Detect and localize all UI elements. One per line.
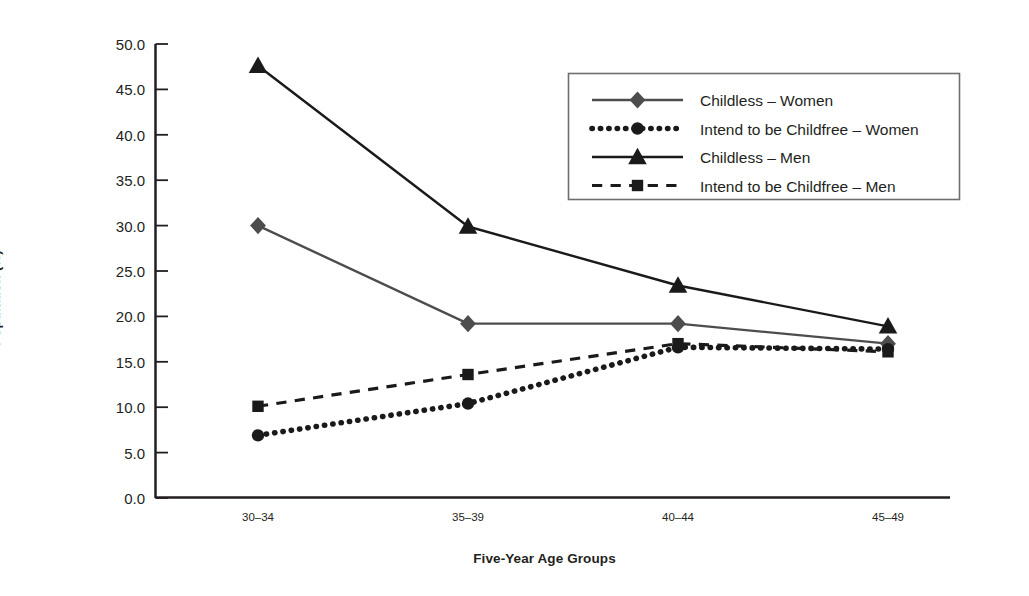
y-tick-label: 20.0 bbox=[116, 308, 145, 325]
x-axis-title-text: Five-Year Age Groups bbox=[413, 551, 616, 566]
series-marker bbox=[882, 346, 893, 357]
legend-label: Childless – Women bbox=[700, 92, 833, 109]
y-tick-label: 30.0 bbox=[116, 218, 145, 235]
line-chart-canvas: 0.05.010.015.020.025.030.035.040.045.050… bbox=[0, 0, 1029, 596]
x-tick-label: 30–34 bbox=[242, 511, 275, 523]
legend-marker-sample bbox=[631, 122, 643, 134]
y-axis-title-text: Population (%) bbox=[0, 250, 33, 346]
x-tick-label: 35–39 bbox=[452, 511, 484, 523]
y-tick-label: 0.0 bbox=[124, 490, 145, 507]
y-tick-label: 10.0 bbox=[116, 399, 145, 416]
series-marker bbox=[670, 315, 686, 332]
series-marker bbox=[249, 56, 268, 72]
series-line bbox=[258, 226, 888, 344]
x-axis-tick-labels: 30–3435–3940–4445–49 bbox=[242, 511, 904, 523]
y-tick-label: 35.0 bbox=[116, 172, 145, 189]
series-marker bbox=[252, 429, 264, 441]
x-tick-label: 45–49 bbox=[872, 511, 904, 523]
chart-figure: 0.05.010.015.020.025.030.035.040.045.050… bbox=[0, 0, 1029, 596]
legend-label: Intend to be Childfree – Men bbox=[700, 178, 896, 195]
y-axis-ticks bbox=[156, 44, 169, 498]
y-axis-title: Population (%) bbox=[0, 0, 20, 596]
legend-label: Intend to be Childfree – Women bbox=[700, 121, 919, 138]
y-tick-label: 45.0 bbox=[116, 81, 145, 98]
series-marker bbox=[462, 397, 474, 409]
y-tick-label: 40.0 bbox=[116, 127, 145, 144]
y-tick-label: 50.0 bbox=[116, 36, 145, 53]
chart-legend: Childless – WomenIntend to be Childfree … bbox=[569, 74, 960, 200]
y-tick-label: 15.0 bbox=[116, 354, 145, 371]
series-marker bbox=[250, 217, 266, 234]
legend-label: Childless – Men bbox=[700, 149, 810, 166]
series-marker bbox=[459, 217, 478, 234]
series-marker bbox=[252, 401, 263, 412]
x-axis-title: Five-Year Age Groups bbox=[0, 551, 1029, 566]
y-tick-label: 25.0 bbox=[116, 263, 145, 280]
y-tick-label: 5.0 bbox=[124, 445, 145, 462]
series-marker bbox=[672, 338, 683, 349]
y-axis-tick-labels: 0.05.010.015.020.025.030.035.040.045.050… bbox=[116, 36, 145, 507]
series-marker bbox=[462, 369, 473, 380]
series-marker bbox=[460, 315, 476, 332]
legend-marker-sample bbox=[632, 180, 643, 191]
x-tick-label: 40–44 bbox=[662, 511, 695, 523]
